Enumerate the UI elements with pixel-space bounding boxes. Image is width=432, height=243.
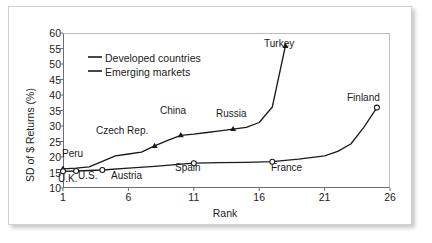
chart-vector-layer	[0, 0, 432, 243]
series-line-emerging-markets	[63, 46, 285, 169]
series-markers-emerging-markets	[60, 43, 288, 171]
chart-figure: SD of $ Returns (%) Rank 60 55 50 45 40 …	[0, 0, 432, 243]
y-tick-marks	[60, 33, 63, 188]
series-markers-developed-countries	[61, 105, 380, 174]
series-line-developed-countries	[63, 108, 377, 172]
x-tick-marks	[63, 188, 390, 191]
